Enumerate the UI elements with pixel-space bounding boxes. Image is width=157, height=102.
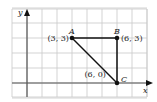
coordinate-label-C: (6, 0)	[84, 70, 106, 79]
point-label-A: A	[68, 27, 75, 36]
y-axis-arrow-icon	[24, 9, 30, 16]
x-axis-label: x	[143, 86, 148, 95]
point-label-C: C	[121, 75, 127, 84]
point-label-B: B	[113, 27, 120, 36]
y-axis-label: y	[17, 8, 23, 17]
point-C	[115, 81, 120, 86]
points: A(3, 3)B(6, 3)C(6, 0)	[47, 27, 142, 85]
point-B	[115, 36, 120, 41]
grid-lines	[12, 8, 147, 98]
coordinate-plane: x y A(3, 3)B(6, 3)C(6, 0)	[0, 0, 157, 102]
point-A	[70, 36, 75, 41]
coordinate-label-B: (6, 3)	[121, 34, 143, 43]
coordinate-label-A: (3, 3)	[47, 34, 69, 43]
